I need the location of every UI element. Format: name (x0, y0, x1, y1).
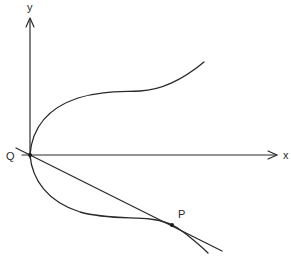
curve-upper-branch (30, 62, 204, 155)
point-p-label: P (178, 208, 185, 220)
point-p-marker (170, 223, 174, 227)
y-axis: y (26, 1, 34, 158)
x-axis: x (22, 149, 289, 161)
y-axis-label: y (27, 1, 33, 13)
tangent-line (16, 148, 222, 251)
point-p: P (170, 208, 185, 227)
point-q: Q (6, 150, 32, 162)
curve-lower-branch (30, 155, 208, 253)
curve-tangent-diagram: y x Q P (0, 0, 291, 258)
point-q-marker (28, 153, 32, 157)
point-q-label: Q (6, 150, 15, 162)
x-axis-label: x (283, 149, 289, 161)
